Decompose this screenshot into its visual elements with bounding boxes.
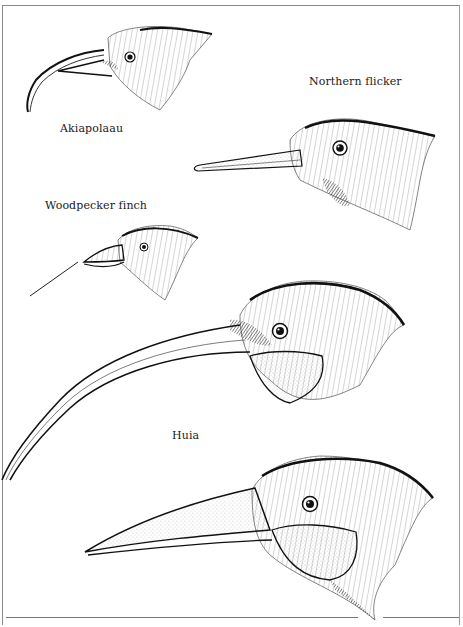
akiapolaau-head (27, 26, 212, 112)
label-woodpecker-finch: Woodpecker finch (45, 199, 147, 212)
label-huia: Huia (172, 429, 199, 442)
huia-male-head (85, 456, 433, 620)
label-akiapolaau: Akiapolaau (60, 122, 123, 135)
bird-heads-drawing (0, 0, 463, 627)
illustration-plate: Akiapolaau Northern flicker Woodpecker f… (0, 0, 463, 627)
label-northern-flicker: Northern flicker (309, 75, 402, 88)
huia-female-head (2, 281, 404, 480)
northern-flicker-head (194, 119, 435, 230)
woodpecker-finch-head (30, 226, 198, 300)
